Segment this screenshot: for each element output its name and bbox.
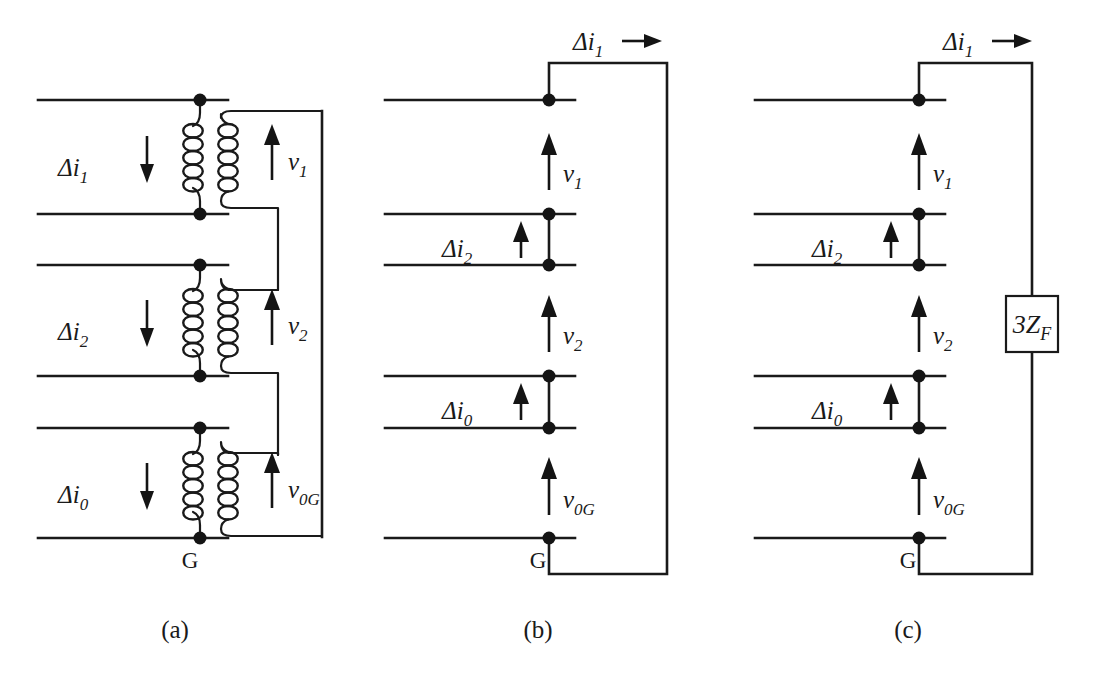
panel-a-label-v0G: v0G (288, 476, 320, 509)
panel-a-delta-i1-arrow (140, 136, 154, 183)
panel-c-label-v0G: v0G (933, 486, 965, 519)
panel-c-delta-i1-arrow (992, 34, 1032, 48)
panel-a-ground-label: G (182, 548, 199, 573)
panel-a-node-6 (194, 532, 207, 545)
panel-c-label-delta-i0: Δi0 (811, 397, 843, 430)
panel-a-delta-i0-arrow (140, 463, 154, 510)
panel-c-label-delta-i1: Δi1 (942, 28, 973, 61)
panel-a-label-v1: v1 (288, 148, 308, 181)
panel-a-v1-arrow (264, 124, 280, 180)
panel-b-node-5 (543, 422, 556, 435)
panel-a: Δi1 Δi2 Δi0 v1 v2 v0G G (a) (38, 94, 322, 645)
panel-c-node-3 (913, 259, 926, 272)
panel-c-node-2 (913, 208, 926, 221)
panel-c-v2-arrow (911, 295, 927, 352)
panel-b-label-delta-i1: Δi1 (572, 28, 603, 61)
panel-a-node-5 (194, 422, 207, 435)
panel-a-v2-arrow (264, 289, 280, 345)
panel-b-node-1 (543, 94, 556, 107)
panel-b-ground-label: G (530, 548, 547, 573)
panel-c-node-1 (913, 94, 926, 107)
panel-a-node-1 (194, 94, 207, 107)
panel-c-node-4 (913, 370, 926, 383)
panel-a-node-3 (194, 259, 207, 272)
panel-a-delta-i2-arrow (140, 300, 154, 347)
panel-c-v0G-arrow (911, 457, 927, 515)
panel-b-node-6 (543, 532, 556, 545)
panel-b-node-4 (543, 370, 556, 383)
panel-b-v0G-arrow (541, 457, 557, 515)
panel-a-caption: (a) (161, 616, 189, 644)
panel-b-v1-arrow (541, 133, 557, 190)
figure-root: Δi1 Δi2 Δi0 v1 v2 v0G G (a) (0, 0, 1099, 678)
panel-c-node-5 (913, 422, 926, 435)
panel-a-t3-secondary-lead-top (221, 442, 278, 455)
panel-a-t3-secondary-coil (218, 452, 238, 520)
panel-c-caption: (c) (894, 616, 922, 644)
circuit-diagram: Δi1 Δi2 Δi0 v1 v2 v0G G (a) (0, 0, 1099, 678)
panel-a-label-delta-i1: Δi1 (57, 154, 88, 187)
panel-c-label-v1: v1 (933, 160, 953, 193)
panel-c-delta-i0-arrow (883, 383, 899, 420)
panel-a-t1-primary-coil (183, 124, 203, 192)
panel-a-t2-secondary-coil (218, 289, 238, 357)
panel-b-delta-i1-arrow (622, 34, 662, 48)
panel-b-caption: (b) (523, 616, 552, 644)
panel-c-label-v2: v2 (933, 322, 953, 355)
panel-a-t2-secondary-lead-bottom (221, 357, 278, 456)
panel-c: 3ZF Δi1 v1 Δi2 v2 (755, 28, 1058, 644)
panel-a-label-delta-i2: Δi2 (57, 318, 89, 351)
panel-a-t1-secondary-lead-top (221, 111, 322, 124)
panel-b-label-delta-i0: Δi0 (441, 397, 473, 430)
panel-a-node-2 (194, 208, 207, 221)
panel-c-ground-label: G (900, 548, 917, 573)
panel-c-label-delta-i2: Δi2 (811, 235, 843, 268)
panel-b-delta-i0-arrow (513, 383, 529, 420)
panel-c-return-loop-bottom (919, 352, 1032, 574)
panel-a-t1-secondary-coil (218, 124, 238, 192)
panel-a-label-delta-i0: Δi0 (57, 481, 89, 514)
panel-b-delta-i2-arrow (513, 221, 529, 258)
panel-c-v1-arrow (911, 133, 927, 190)
panel-a-t2-primary-coil (183, 289, 203, 357)
panel-a-label-v2: v2 (288, 312, 308, 345)
panel-b-node-2 (543, 208, 556, 221)
panel-a-v0G-arrow (264, 452, 280, 508)
panel-b-label-v1: v1 (563, 160, 583, 193)
panel-b-label-v2: v2 (563, 322, 583, 355)
panel-b-label-v0G: v0G (563, 486, 595, 519)
panel-b-v2-arrow (541, 295, 557, 352)
panel-c-node-6 (913, 532, 926, 545)
panel-b-node-3 (543, 259, 556, 272)
panel-a-t3-primary-coil (183, 452, 203, 520)
panel-a-t3-secondary-lead-bottom (221, 520, 322, 537)
panel-a-t1-secondary-lead-bottom (221, 192, 278, 291)
panel-b-label-delta-i2: Δi2 (441, 235, 473, 268)
panel-c-delta-i2-arrow (883, 221, 899, 258)
panel-a-node-4 (194, 370, 207, 383)
panel-b: Δi1 v1 Δi2 v2 Δi0 v0G G (385, 28, 667, 644)
